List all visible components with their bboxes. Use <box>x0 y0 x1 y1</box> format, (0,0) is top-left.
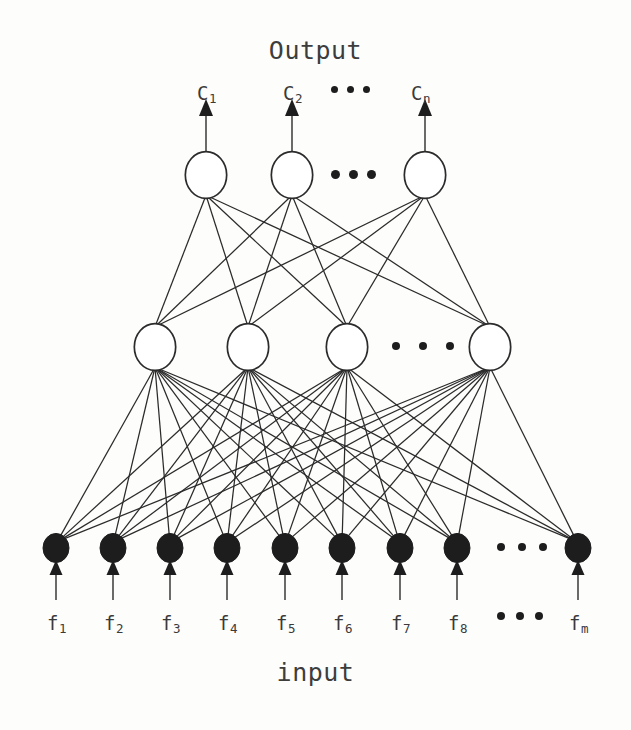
output-label-1-base: C <box>197 82 208 104</box>
edge-input-hidden <box>347 367 399 541</box>
hidden-node-4 <box>469 324 510 371</box>
edge-hidden-output <box>425 195 490 327</box>
input-label-6-base: f <box>333 612 344 634</box>
input-label-4-subscript: 4 <box>230 621 238 636</box>
input-label-2: f2 <box>104 614 123 633</box>
edge-hidden-output <box>155 195 292 327</box>
input-label-1-subscript: 1 <box>59 621 67 636</box>
output-label-3-subscript: n <box>423 91 431 106</box>
input-node-3 <box>157 533 183 562</box>
input-label-7-subscript: 7 <box>403 621 411 636</box>
ellipsis-dot <box>497 612 505 620</box>
edge-input-hidden <box>155 367 170 541</box>
input-label-5-base: f <box>276 612 287 634</box>
input-node-2 <box>100 533 126 562</box>
edge-input-hidden <box>458 367 490 541</box>
input-label-3-subscript: 3 <box>173 621 181 636</box>
input-node-1 <box>43 533 69 562</box>
ellipsis-dot <box>516 612 524 620</box>
edge-hidden-output <box>155 195 206 327</box>
output-node-2 <box>271 152 312 199</box>
ellipsis-dot <box>331 86 338 93</box>
output-label-3-base: C <box>411 82 422 104</box>
input-title: input <box>0 660 631 685</box>
hidden-node-3 <box>326 324 367 371</box>
ellipsis-dot <box>539 543 547 551</box>
edge-input-hidden <box>347 367 575 541</box>
input-arrows <box>50 560 585 600</box>
input-label-7: f7 <box>391 614 410 633</box>
input-label-2-base: f <box>104 612 115 634</box>
output-label-2-base: C <box>283 82 294 104</box>
input-node-6 <box>329 533 355 562</box>
input-label-1: f1 <box>47 614 66 633</box>
input-label-4: f4 <box>218 614 237 633</box>
input-label-9-subscript: m <box>581 621 589 636</box>
edge-input-hidden <box>347 367 455 541</box>
ellipsis-dot <box>518 543 526 551</box>
output-node-3 <box>404 152 445 199</box>
edge-hidden-output <box>206 195 490 327</box>
input-label-8-base: f <box>448 612 459 634</box>
input-node-4 <box>214 533 240 562</box>
edge-hidden-output <box>292 195 347 327</box>
output-label-3: Cn <box>411 84 430 103</box>
input-node-8 <box>444 533 470 562</box>
ellipsis-dot <box>392 342 400 350</box>
output-node-1 <box>185 152 226 199</box>
ellipsis-dot <box>347 86 354 93</box>
edge-hidden-output <box>347 195 425 327</box>
output-layer-nodes <box>185 152 445 199</box>
input-node-5 <box>272 533 298 562</box>
output-layer-ellipsis-top <box>331 86 370 93</box>
input-label-5: f5 <box>276 614 295 633</box>
input-node-7 <box>387 533 413 562</box>
input-label-9: fm <box>569 614 588 633</box>
edge-hidden-output <box>292 195 490 327</box>
output-title: Output <box>0 38 631 63</box>
input-label-4-base: f <box>218 612 229 634</box>
edge-hidden-output <box>248 195 425 327</box>
ellipsis-dot <box>363 86 370 93</box>
ellipsis-dot <box>419 342 427 350</box>
output-arrows <box>199 99 432 153</box>
input-label-8-subscript: 8 <box>460 621 468 636</box>
hidden-node-1 <box>134 324 175 371</box>
edge-input-hidden <box>286 367 347 541</box>
output-label-1: C1 <box>197 84 216 103</box>
edge-input-hidden <box>59 367 490 541</box>
neural-network-diagram: Output input C1C2Cn f1f2f3f4f5f6f7f8fm <box>0 0 631 730</box>
input-labels-ellipsis <box>497 612 543 620</box>
edge-input-hidden <box>490 367 576 541</box>
hidden-node-2 <box>227 324 268 371</box>
input-label-6: f6 <box>333 614 352 633</box>
ellipsis-dot <box>367 170 376 179</box>
edge-hidden-output <box>248 195 292 327</box>
input-label-7-base: f <box>391 612 402 634</box>
network-graphic <box>0 0 631 730</box>
output-label-2: C2 <box>283 84 302 103</box>
input-label-1-base: f <box>47 612 58 634</box>
ellipsis-dot <box>349 170 358 179</box>
edges-hidden-to-output <box>155 195 490 327</box>
edge-input-hidden <box>230 367 490 541</box>
output-label-2-subscript: 2 <box>295 91 303 106</box>
ellipsis-dot <box>535 612 543 620</box>
edge-input-hidden <box>288 367 490 541</box>
edge-input-hidden <box>58 367 155 541</box>
ellipsis-dot <box>446 342 454 350</box>
hidden-layer-nodes <box>134 324 510 371</box>
input-layer-ellipsis <box>497 543 547 551</box>
ellipsis-dot <box>497 543 505 551</box>
edges-input-to-hidden <box>58 367 577 541</box>
edge-input-hidden <box>342 367 347 541</box>
input-label-3-base: f <box>161 612 172 634</box>
edge-input-hidden <box>248 367 398 541</box>
input-label-5-subscript: 5 <box>288 621 296 636</box>
edge-input-hidden <box>172 367 347 541</box>
edge-input-hidden <box>402 367 490 541</box>
input-label-6-subscript: 6 <box>345 621 353 636</box>
output-label-1-subscript: 1 <box>209 91 217 106</box>
input-label-3: f3 <box>161 614 180 633</box>
input-label-2-subscript: 2 <box>116 621 124 636</box>
